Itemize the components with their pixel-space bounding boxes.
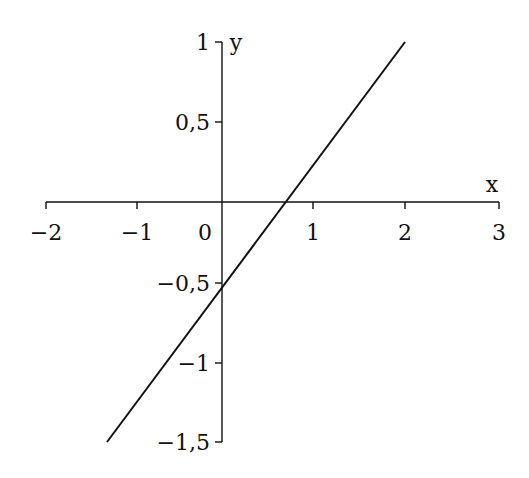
x-tick-label: 0 (198, 220, 212, 245)
y-axis (215, 42, 222, 442)
x-axis (46, 202, 499, 209)
x-tick-label: −1 (121, 220, 153, 245)
y-axis-label: y (229, 30, 243, 55)
y-tick-label: 1 (196, 30, 210, 55)
y-tick-label: −0,5 (157, 271, 210, 296)
x-tick-label: 1 (306, 220, 320, 245)
y-tick-label: −1,5 (157, 430, 210, 455)
x-tick-label: 3 (492, 220, 506, 245)
y-tick-label: 0,5 (175, 110, 210, 135)
y-tick-label: −1 (178, 351, 210, 376)
x-tick-label: −2 (30, 220, 62, 245)
x-axis-label: x (486, 172, 499, 197)
x-tick-label: 2 (398, 220, 412, 245)
chart: −2 −1 0 1 2 3 1 0,5 −0,5 −1 −1,5 x y (0, 0, 529, 478)
